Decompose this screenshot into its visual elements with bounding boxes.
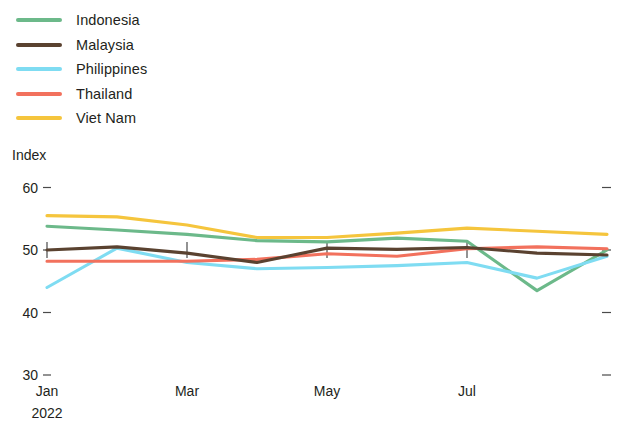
x-tick-label: Jul (458, 383, 476, 399)
y-axis-ticks-left: 60504030 (22, 180, 51, 384)
y-tick-label: 30 (22, 367, 38, 383)
x-tick-label: Mar (175, 383, 199, 399)
y-axis-ticks-right (602, 188, 611, 376)
y-tick-label: 40 (22, 305, 38, 321)
series-line-indonesia[interactable] (47, 226, 607, 290)
x-axis-year-label: 2022 (31, 405, 62, 421)
x-tick-label: Jan (36, 383, 59, 399)
x-axis-labels: JanMarMayJul2022 (31, 383, 476, 421)
line-chart: 60504030 JanMarMayJul2022 (0, 0, 618, 428)
y-tick-label: 50 (22, 242, 38, 258)
chart-svg: 60504030 JanMarMayJul2022 (0, 0, 618, 428)
x-tick-label: May (314, 383, 340, 399)
y-tick-label: 60 (22, 180, 38, 196)
chart-page: IndonesiaMalaysiaPhilippinesThailandViet… (0, 0, 618, 428)
series-line-viet-nam[interactable] (47, 216, 607, 238)
chart-series-group (47, 216, 607, 291)
